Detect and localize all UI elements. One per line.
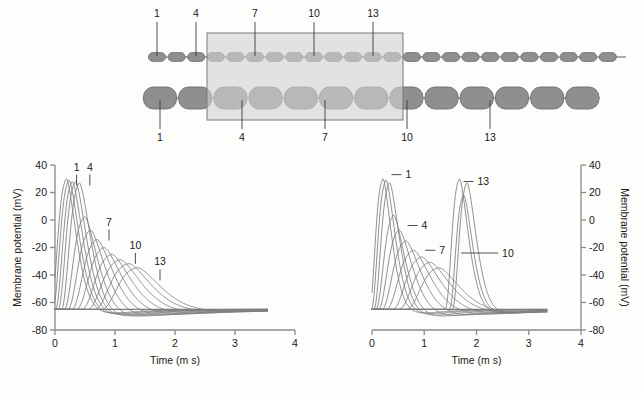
left-chart-y-tick-label: 40: [35, 159, 47, 171]
bottom-node-label-10: 10: [401, 131, 413, 143]
left-chart-y-tick-label: -60: [32, 296, 47, 308]
bottom-node-label-13: 13: [484, 131, 496, 143]
left-chart-x-tick-label: 0: [52, 337, 58, 349]
bottom-node-label-1: 1: [157, 131, 163, 143]
right-chart-y-tick-label: 0: [589, 214, 595, 226]
left-chart-y-tick-label: -20: [32, 241, 47, 253]
right-chart-trace: [372, 257, 547, 313]
right-chart-annotation-7: 7: [439, 244, 445, 256]
right-chart-trace: [372, 179, 547, 313]
right-chart-x-tick-label: 1: [421, 337, 427, 349]
top-internode-segment: [540, 53, 557, 62]
top-node-label-7: 7: [252, 7, 258, 19]
top-internode-segment: [482, 53, 499, 62]
left-chart-annotation-13: 13: [154, 255, 166, 267]
top-node-label-4: 4: [193, 7, 199, 19]
top-internode-segment: [442, 53, 459, 62]
top-internode-segment: [168, 53, 185, 62]
bottom-internode-segment: [531, 87, 564, 109]
left-chart-y-tick-label: 0: [41, 214, 47, 226]
top-internode-segment: [521, 53, 538, 62]
right-chart-trace: [372, 179, 547, 313]
left-chart-x-tick-label: 1: [112, 337, 118, 349]
top-node-label-1: 1: [154, 7, 160, 19]
left-chart-y-tick-label: 20: [35, 186, 47, 198]
left-chart-trace: [55, 179, 267, 313]
right-chart-y-tick-label: 40: [589, 159, 601, 171]
right-chart-y-tick-label: -80: [589, 324, 604, 336]
right-chart-trace: [372, 268, 547, 313]
top-internode-segment: [403, 53, 420, 62]
figure-root: 1471013147101301234Time (m s)-80-60-40-2…: [0, 0, 641, 396]
left-chart-annotation-1: 1: [74, 161, 80, 173]
top-node-label-13: 13: [367, 7, 379, 19]
bottom-internode-segment: [425, 87, 458, 109]
demyelinated-region-shading: [207, 33, 403, 120]
top-node-label-10: 10: [308, 7, 320, 19]
right-chart-x-tick-label: 3: [526, 337, 532, 349]
right-chart-y-tick-label: -20: [589, 241, 604, 253]
right-chart-x-tick-label: 0: [369, 337, 375, 349]
right-chart-x-tick-label: 2: [474, 337, 480, 349]
figure-canvas: 1471013147101301234Time (m s)-80-60-40-2…: [0, 0, 641, 396]
right-chart-x-axis-title: Time (m s): [452, 354, 502, 366]
right-chart-y-tick-label: -40: [589, 269, 604, 281]
right-chart-annotation-1: 1: [405, 168, 411, 180]
top-internode-segment: [501, 53, 518, 62]
left-chart-annotation-10: 10: [130, 239, 142, 251]
right-chart-y-tick-label: 20: [589, 186, 601, 198]
right-chart-y-axis-title: Membrane potential (mV): [619, 188, 631, 306]
left-chart-y-tick-label: -80: [32, 324, 47, 336]
right-chart-annotation-13: 13: [478, 175, 490, 187]
top-internode-segment: [423, 53, 440, 62]
right-chart-trace: [372, 180, 547, 313]
left-chart-annotation-4: 4: [87, 161, 93, 173]
left-chart-trace: [55, 183, 267, 316]
top-internode-segment: [599, 53, 616, 62]
bottom-internode-segment: [495, 87, 528, 109]
top-internode-segment: [560, 53, 577, 62]
right-chart-y-tick-label: -60: [589, 296, 604, 308]
bottom-internode-segment: [460, 87, 493, 109]
left-chart-trace: [55, 182, 267, 315]
left-chart-x-tick-label: 3: [232, 337, 238, 349]
right-chart-trace: [372, 250, 547, 314]
right-chart-x-tick-label: 4: [578, 337, 584, 349]
right-chart-trace: [372, 183, 547, 313]
top-internode-segment: [580, 53, 597, 62]
top-internode-segment: [462, 53, 479, 62]
left-chart-y-axis-title: Membrane potential (mV): [11, 188, 23, 306]
right-chart-trace: [372, 183, 547, 315]
left-chart-x-tick-label: 4: [292, 337, 298, 349]
left-chart-x-axis-title: Time (m s): [150, 354, 200, 366]
bottom-node-label-4: 4: [239, 131, 245, 143]
right-chart-annotation-10: 10: [502, 247, 514, 259]
bottom-internode-segment: [566, 87, 599, 109]
right-chart-annotation-4: 4: [422, 219, 428, 231]
left-chart-annotation-7: 7: [106, 216, 112, 228]
left-chart-y-tick-label: -40: [32, 269, 47, 281]
bottom-node-label-7: 7: [322, 131, 328, 143]
left-chart-trace: [55, 180, 267, 313]
left-chart-x-tick-label: 2: [172, 337, 178, 349]
